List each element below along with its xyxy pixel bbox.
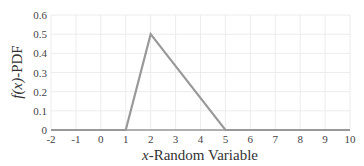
x-tick-label: -2 <box>46 133 55 145</box>
y-tick-label: 0.3 <box>33 67 47 79</box>
x-axis-ticks: -2-1012345678910 <box>46 133 356 145</box>
x-tick-label: -1 <box>71 133 80 145</box>
y-tick-label: 0.1 <box>33 105 47 117</box>
x-tick-label: 0 <box>98 133 104 145</box>
x-axis-label: x-Random Variable <box>141 147 258 163</box>
x-tick-label: 2 <box>148 133 154 145</box>
y-axis-ticks: 00.10.20.30.40.50.6 <box>33 9 47 136</box>
x-tick-label: 4 <box>198 133 204 145</box>
x-tick-label: 5 <box>223 133 229 145</box>
y-tick-label: 0.5 <box>33 28 47 40</box>
y-tick-label: 0.2 <box>33 86 47 98</box>
x-tick-label: 8 <box>297 133 303 145</box>
x-tick-label: 7 <box>273 133 279 145</box>
y-axis-label: f(x)-PDF <box>9 45 26 98</box>
pdf-chart: 00.10.20.30.40.50.6 -2-1012345678910 x-R… <box>0 0 364 166</box>
x-tick-label: 1 <box>123 133 129 145</box>
gridlines <box>51 15 350 130</box>
x-tick-label: 6 <box>248 133 254 145</box>
x-tick-label: 9 <box>322 133 328 145</box>
x-tick-label: 3 <box>173 133 179 145</box>
y-tick-label: 0.4 <box>33 47 47 59</box>
x-tick-label: 10 <box>345 133 357 145</box>
y-tick-label: 0.6 <box>33 9 47 21</box>
